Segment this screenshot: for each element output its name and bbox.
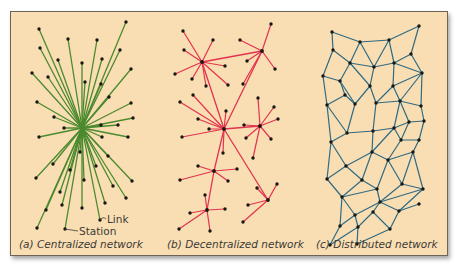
station-node	[204, 84, 207, 87]
station-node	[371, 210, 374, 213]
link	[180, 171, 214, 180]
link	[372, 131, 373, 152]
station-node	[421, 187, 424, 190]
station-node	[343, 93, 346, 96]
station-node	[103, 201, 106, 204]
station-node	[196, 164, 199, 167]
link	[183, 31, 202, 62]
station-node	[180, 135, 183, 138]
station-node	[275, 182, 278, 185]
link	[268, 184, 277, 200]
link	[394, 63, 422, 73]
caption-decentralized: (b) Decentralized network	[167, 238, 304, 250]
station-node	[330, 30, 333, 33]
station-node	[269, 137, 272, 140]
link	[58, 60, 82, 128]
caption-distributed: (c) Distributed network	[316, 238, 438, 250]
station-node	[273, 67, 276, 70]
station-node	[226, 83, 229, 86]
station-node	[68, 168, 71, 171]
link	[323, 50, 333, 76]
link	[333, 50, 350, 63]
station-node	[207, 127, 210, 130]
link	[180, 102, 224, 129]
station-node	[417, 138, 420, 141]
station-node	[124, 196, 127, 199]
station-node	[392, 126, 395, 129]
station-node	[221, 151, 224, 154]
link	[182, 129, 224, 137]
station-node	[235, 167, 238, 170]
link	[377, 189, 380, 202]
station-node	[80, 61, 83, 64]
station-node	[196, 117, 199, 120]
link	[327, 95, 345, 105]
link	[346, 166, 362, 180]
link	[327, 166, 346, 179]
link	[323, 76, 340, 81]
station-node	[244, 136, 247, 139]
station-node	[118, 48, 121, 51]
station-node	[397, 209, 400, 212]
station-node	[52, 115, 55, 118]
link	[262, 24, 271, 51]
station-node	[325, 177, 328, 180]
link	[193, 95, 224, 129]
station-node	[124, 20, 127, 23]
station-node	[241, 220, 244, 223]
station-node	[30, 71, 33, 74]
link	[402, 184, 423, 189]
station-node	[417, 24, 420, 27]
station-node	[360, 178, 363, 181]
link	[390, 211, 399, 229]
station-node	[173, 72, 176, 75]
station-node	[344, 164, 347, 167]
link	[413, 140, 419, 152]
station-node	[256, 96, 259, 99]
station-node	[370, 150, 373, 153]
link	[394, 128, 401, 140]
link	[421, 106, 424, 121]
network-diagram	[0, 0, 459, 267]
station-node	[38, 46, 41, 49]
link	[243, 51, 262, 84]
station-node	[238, 38, 241, 41]
station-node	[131, 116, 134, 119]
station-node	[356, 225, 359, 228]
link	[360, 40, 389, 42]
station-node	[223, 64, 226, 67]
station-node	[190, 77, 193, 80]
station-node	[83, 80, 86, 83]
station-node	[387, 38, 390, 41]
station-node	[371, 129, 374, 132]
link	[214, 129, 224, 171]
link	[388, 160, 402, 184]
link	[370, 86, 376, 103]
station-node	[378, 200, 381, 203]
station-node	[392, 61, 395, 64]
link	[421, 73, 422, 106]
link	[37, 128, 82, 228]
station-node	[321, 74, 324, 77]
station-node	[82, 178, 85, 181]
station-node	[400, 182, 403, 185]
station-node	[178, 100, 181, 103]
station-node	[417, 202, 420, 205]
link	[400, 101, 421, 106]
station-node	[419, 104, 422, 107]
station-node	[407, 120, 410, 123]
station-node	[353, 213, 356, 216]
link	[214, 169, 237, 171]
link	[323, 76, 327, 105]
station-node	[266, 198, 270, 202]
station-node	[411, 150, 414, 153]
link	[214, 171, 228, 181]
station-node	[358, 40, 361, 43]
caption-centralized: (a) Centralized network	[19, 238, 143, 250]
station-node	[37, 135, 40, 138]
link	[260, 126, 271, 139]
link	[413, 152, 423, 189]
station-node	[37, 27, 40, 30]
station-node	[200, 60, 204, 64]
station-node	[100, 57, 103, 60]
